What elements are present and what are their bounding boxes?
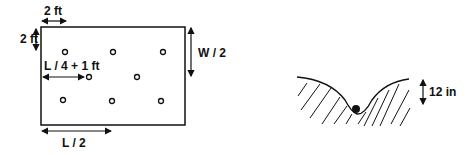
depth-label: 12 in <box>429 85 456 99</box>
sample-point <box>135 75 140 80</box>
sample-point <box>159 99 164 104</box>
middle-offset-label: L / 4 + 1 ft <box>44 59 99 73</box>
side-offset-label: 2 ft <box>20 32 38 46</box>
sample-point <box>110 99 115 104</box>
sampling-grid-plan: 2 ft 2 ft W / 2 L / 4 + 1 ft L / 2 <box>20 4 226 150</box>
diagram-canvas: 2 ft 2 ft W / 2 L / 4 + 1 ft L / 2 <box>0 0 471 155</box>
sample-point <box>87 75 92 80</box>
sample-point <box>61 98 66 103</box>
length-half-label: L / 2 <box>62 136 86 150</box>
soil-hatching <box>298 83 410 126</box>
sample-point <box>161 50 166 55</box>
furrow-cross-section: 12 in <box>297 77 456 126</box>
width-half-label: W / 2 <box>198 46 226 60</box>
top-offset-label: 2 ft <box>44 4 62 18</box>
sample-point <box>111 50 116 55</box>
seed-icon <box>352 105 360 113</box>
field-rectangle <box>41 27 185 125</box>
sample-point <box>63 50 68 55</box>
